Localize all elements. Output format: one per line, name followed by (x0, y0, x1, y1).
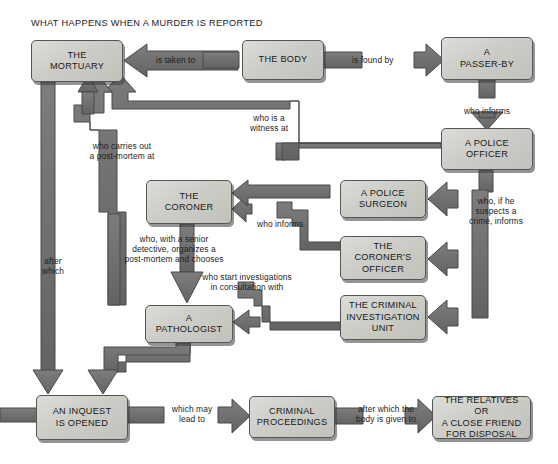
connector-label-after-which-body-given-to: after which the body is given to (347, 404, 425, 424)
arrow-shaft-police-down (479, 170, 493, 192)
arrow-head-to-coroners-officer (428, 242, 458, 276)
node-police-officer[interactable]: A POLICE OFFICER (441, 128, 533, 170)
connector-label-who-carries-out-post-mortem: who carries out a post-mortem at (74, 141, 170, 161)
arrow-head-mortuary-to-inquest (33, 370, 63, 394)
node-mortuary[interactable]: THE MORTUARY (31, 40, 123, 82)
node-coroner[interactable]: THE CORONER (146, 180, 232, 224)
connector-label-who-is-a-witness-at: who is a witness at (234, 113, 304, 133)
arrow-shaft-passerby-down (479, 80, 495, 98)
arrow-head-into-inquest-2 (88, 370, 118, 394)
node-coroners-officer[interactable]: THE CORONER'S OFFICER (340, 236, 426, 280)
arrow-shaft-mortuary-up-2 (82, 92, 94, 114)
connector-label-who-informs-coroner: who informs (257, 219, 317, 229)
node-passer-by-label: A PASSER-BY (457, 47, 517, 70)
node-relatives-for-disposal[interactable]: THE RELATIVES OR A CLOSE FRIEND FOR DISP… (432, 396, 531, 439)
node-criminal-proceedings-label: CRIMINAL PROCEEDINGS (254, 406, 331, 429)
connector-label-after-which: after which (33, 256, 73, 276)
node-body-label: THE BODY (256, 54, 311, 66)
node-criminal-investigation-unit-label: THE CRIMINAL INVESTIGATION UNIT (343, 300, 423, 335)
node-police-officer-label: A POLICE OFFICER (462, 138, 512, 161)
node-inquest[interactable]: AN INQUEST IS OPENED (36, 395, 128, 440)
node-inquest-label: AN INQUEST IS OPENED (50, 406, 115, 429)
connector-label-who-informs-police: who informs (452, 106, 522, 116)
node-criminal-investigation-unit[interactable]: THE CRIMINAL INVESTIGATION UNIT (340, 295, 426, 340)
arrow-head-to-police-surgeon (428, 182, 458, 216)
node-mortuary-label: THE MORTUARY (47, 50, 107, 73)
flowchart-canvas: WHAT HAPPENS WHEN A MURDER IS REPORTED (0, 0, 558, 464)
node-coroners-officer-label: THE CORONER'S OFFICER (351, 241, 414, 276)
connector-label-is-taken-to: is taken to (156, 55, 226, 65)
connector-label-which-may-lead-to: which may lead to (157, 404, 227, 424)
node-relatives-for-disposal-label: THE RELATIVES OR A CLOSE FRIEND FOR DISP… (433, 395, 530, 441)
arrow-police-to-mortuary (276, 143, 441, 160)
arrow-head-ciu-into-pathologist (233, 310, 260, 334)
connector-label-is-found-by: is found by (352, 55, 422, 65)
arrow-stub-inquest-left (0, 408, 40, 422)
connector-label-who-start-investigations: who start investigations in consultation… (183, 272, 311, 292)
node-coroner-label: THE CORONER (162, 191, 217, 214)
node-body[interactable]: THE BODY (242, 40, 324, 80)
node-police-surgeon[interactable]: A POLICE SURGEON (340, 180, 426, 218)
arrow-shaft-mortuary-down (41, 82, 55, 372)
arrow-head-to-ciu (428, 300, 458, 334)
node-pathologist[interactable]: A PATHOLOGIST (145, 305, 233, 343)
node-police-surgeon-label: A POLICE SURGEON (356, 188, 410, 211)
node-criminal-proceedings[interactable]: CRIMINAL PROCEEDINGS (249, 396, 335, 438)
node-pathologist-label: A PATHOLOGIST (153, 313, 226, 336)
connector-label-coroner-organizes: who, with a senior detective, organizes … (108, 234, 240, 265)
connector-label-who-if-he-suspects-a-crime: who, if he suspects a crime, informs (456, 196, 536, 227)
node-passer-by[interactable]: A PASSER-BY (441, 37, 533, 80)
